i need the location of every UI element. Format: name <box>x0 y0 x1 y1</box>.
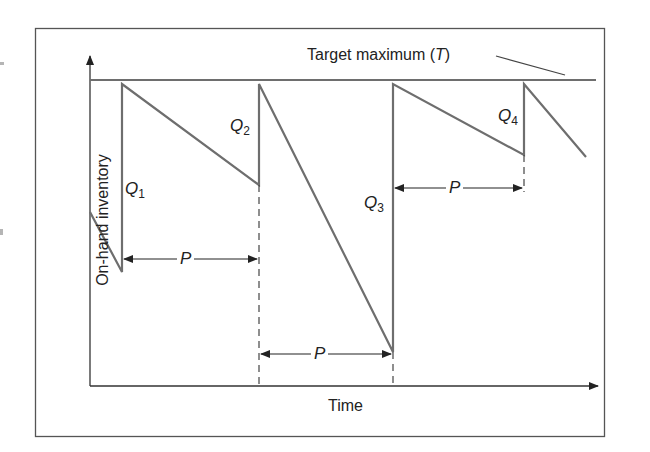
target-maximum-label: Target maximum (T) <box>307 47 450 63</box>
scan-artifact-mark <box>0 229 3 235</box>
period-label-1: P <box>177 250 194 267</box>
order-label-q2: Q2 <box>230 117 250 137</box>
periodic-review-diagram: Target maximum (T) Q1 Q2 Q3 Q4 P P P On-… <box>0 0 650 452</box>
target-label-variable: T <box>435 46 445 63</box>
figure-frame <box>36 29 605 437</box>
order-label-q3: Q3 <box>364 194 384 214</box>
period-label-2: P <box>311 345 328 362</box>
period-label-3: P <box>446 179 463 196</box>
target-label-suffix: ) <box>445 46 450 63</box>
scan-artifact-mark <box>0 62 4 65</box>
y-axis-label: On-hand inventory <box>94 154 112 286</box>
target-label-prefix: Target maximum ( <box>307 46 435 63</box>
order-label-q1: Q1 <box>125 180 145 200</box>
x-axis-label: Time <box>328 398 363 414</box>
target-leader-line <box>496 56 565 75</box>
order-label-q4: Q4 <box>498 107 518 127</box>
